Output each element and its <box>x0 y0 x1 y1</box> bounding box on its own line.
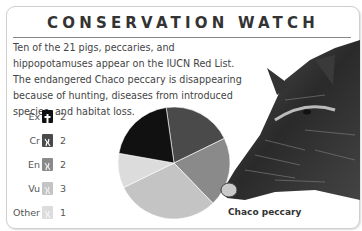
legend-label: Other <box>13 206 40 220</box>
pig-icon <box>42 182 53 195</box>
pig-icon <box>42 206 53 219</box>
legend-item-ex: Ex 2 <box>10 110 110 124</box>
pig-icon <box>42 158 53 171</box>
legend-value: 1 <box>60 206 66 220</box>
legend-label: Cr <box>29 134 40 148</box>
legend-item-vu: Vu 3 <box>10 182 110 196</box>
panel-title: CONSERVATION WATCH <box>7 14 359 32</box>
legend-label: Ex <box>28 110 40 124</box>
legend-value: 3 <box>60 182 66 196</box>
pig-icon <box>42 134 53 147</box>
legend-value: 2 <box>60 110 66 124</box>
legend-item-cr: Cr 2 <box>10 134 110 148</box>
legend-value: 2 <box>60 134 66 148</box>
extinct-cross-icon <box>42 110 53 123</box>
pie-slice-ex <box>119 108 174 163</box>
chaco-peccary-illustration <box>215 40 360 222</box>
legend-item-en: En 2 <box>10 158 110 172</box>
legend-label: En <box>28 158 40 172</box>
title-divider <box>13 37 351 38</box>
legend-value: 2 <box>60 158 66 172</box>
legend-item-other: Other 1 <box>10 206 110 220</box>
image-caption: Chaco peccary <box>228 207 301 217</box>
legend-label: Vu <box>28 182 40 196</box>
